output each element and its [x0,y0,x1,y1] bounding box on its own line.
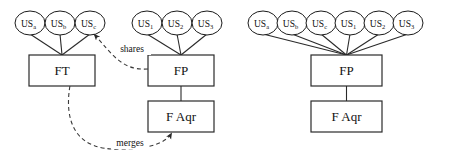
edge-l-us-a-to-l-ft [30,34,62,55]
edge-l-us-2-to-l-fp [177,34,181,55]
diagram-svg: FTFPF AqrUSaUSbUScUS1US2US3 FPF AqrUSaUS… [0,0,459,157]
right-panel-nodes: FPF AqrUSaUSbUScUS1US2US3 [248,11,423,132]
left-panel-nodes: FTFPF AqrUSaUSbUScUS1US2US3 [15,11,222,132]
edge-r-us-1-to-r-fp [347,34,351,55]
edge-shares-label: shares [120,44,144,54]
node-box-label-l-ft: FT [54,63,69,78]
edge-l-us-b-to-l-ft [60,34,62,55]
node-box-label-l-fp: FP [174,63,188,78]
edge-l-us-c-to-l-ft [62,34,90,55]
edge-l-us-3-to-l-fp [181,34,207,55]
node-box-label-r-fp: FP [339,63,353,78]
node-box-label-r-faqr: F Aqr [332,109,363,124]
node-box-label-l-faqr: F Aqr [166,109,197,124]
edge-r-us-3-to-r-fp [347,34,409,55]
edge-r-us-2-to-r-fp [347,34,380,55]
edge-r-us-b-to-r-fp [292,34,347,55]
edge-merges-label: merges [116,138,144,148]
edge-l-us-1-to-l-fp [147,34,181,55]
diagram-canvas: FTFPF AqrUSaUSbUScUS1US2US3 FPF AqrUSaUS… [0,0,459,157]
